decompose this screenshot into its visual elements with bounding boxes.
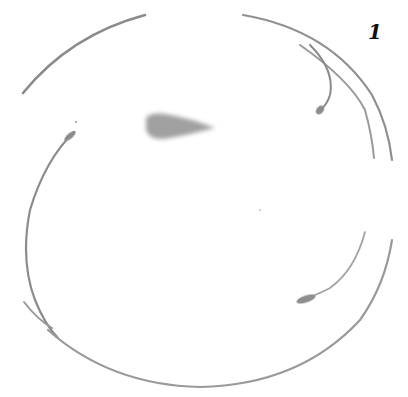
central-droplet [146,114,215,140]
dish-rim-top-right-inner [300,45,374,158]
dish-rim-left [26,132,74,338]
droplet-tail-bottom-right [300,232,365,300]
dish-illustration [0,0,408,397]
droplet-head-bottom-right [295,292,316,305]
dish-rim-top-left [23,15,145,93]
dish-rim-bottom [48,240,392,387]
panel-label: 1 [368,22,382,42]
dish-figure: 1 [0,0,408,397]
speck [75,121,77,123]
speck-center [259,209,261,211]
